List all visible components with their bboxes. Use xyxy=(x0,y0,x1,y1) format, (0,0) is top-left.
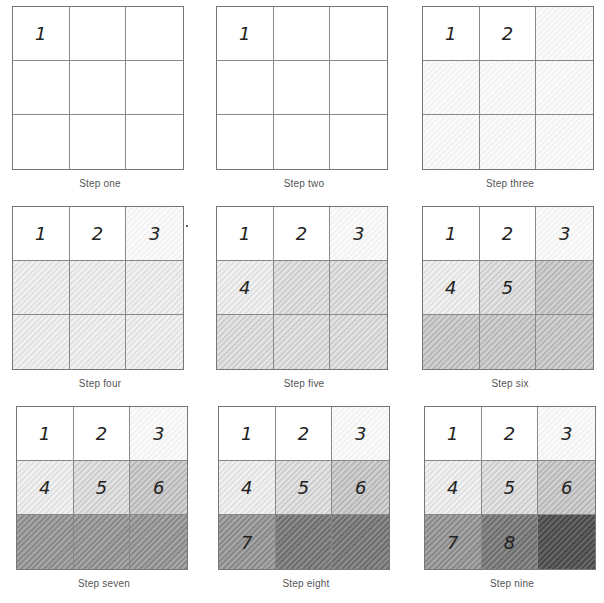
grid-cell xyxy=(126,7,183,61)
grid-cell xyxy=(536,61,593,115)
cell-number: 2 xyxy=(502,23,513,44)
cell-number: 3 xyxy=(153,423,164,444)
cell-number: 4 xyxy=(447,477,458,498)
cell-number: 8 xyxy=(504,532,515,553)
grid-cell: 3 xyxy=(126,207,183,261)
step-panel: 12345678Step nine xyxy=(424,406,600,589)
grid-cell xyxy=(217,315,274,369)
cell-number: 3 xyxy=(353,223,364,244)
grid-cell: 8 xyxy=(482,515,539,569)
step-caption: Step six xyxy=(422,378,598,389)
grid-cell: 2 xyxy=(480,207,537,261)
grid-cell xyxy=(538,515,595,569)
cell-number: 2 xyxy=(502,223,513,244)
cell-number: 5 xyxy=(504,477,515,498)
grid-cell: 1 xyxy=(423,207,480,261)
grid-cell xyxy=(17,515,74,569)
grid-cell xyxy=(274,115,331,169)
cell-number: 2 xyxy=(298,423,309,444)
cell-number: 6 xyxy=(355,477,366,498)
grid-cell: 4 xyxy=(423,261,480,315)
value-grid: 123456 xyxy=(16,406,188,570)
cell-number: 3 xyxy=(355,423,366,444)
step-panel: 12345Step six xyxy=(422,206,598,389)
value-grid: 1234567 xyxy=(218,406,390,570)
grid-cell xyxy=(480,315,537,369)
grid-cell: 1 xyxy=(13,207,70,261)
grid-cell: 1 xyxy=(17,407,74,461)
cell-number: 1 xyxy=(445,23,456,44)
grid-cell: 3 xyxy=(538,407,595,461)
grid-cell xyxy=(480,115,537,169)
grid-cell xyxy=(126,61,183,115)
grid-cell: 1 xyxy=(219,407,276,461)
cell-number: 1 xyxy=(35,23,46,44)
grid-cell xyxy=(330,315,387,369)
grid-cell: 6 xyxy=(332,461,389,515)
grid-cell: 6 xyxy=(538,461,595,515)
cell-number: 2 xyxy=(96,423,107,444)
grid-cell xyxy=(13,261,70,315)
grid-cell: 3 xyxy=(330,207,387,261)
grid-cell xyxy=(274,61,331,115)
grid-cell: 1 xyxy=(217,207,274,261)
grid-cell xyxy=(423,115,480,169)
grid-cell: 2 xyxy=(74,407,131,461)
grid-cell xyxy=(274,261,331,315)
cell-number: 5 xyxy=(96,477,107,498)
grid-cell: 7 xyxy=(219,515,276,569)
cell-number: 1 xyxy=(35,223,46,244)
value-grid: 12 xyxy=(422,6,594,170)
cell-number: 3 xyxy=(559,223,570,244)
grid-cell xyxy=(276,515,333,569)
cell-number: 2 xyxy=(296,223,307,244)
grid-cell xyxy=(217,61,274,115)
grid-cell xyxy=(274,7,331,61)
cell-number: 2 xyxy=(92,223,103,244)
grid-cell xyxy=(536,115,593,169)
cell-number: 4 xyxy=(39,477,50,498)
step-caption: Step seven xyxy=(16,578,192,589)
cell-number: 2 xyxy=(504,423,515,444)
grid-cell xyxy=(330,115,387,169)
grid-cell: 5 xyxy=(276,461,333,515)
grid-cell xyxy=(126,115,183,169)
grid-cell xyxy=(13,61,70,115)
grid-cell: 4 xyxy=(17,461,74,515)
cell-number: 1 xyxy=(39,423,50,444)
value-grid: 12345 xyxy=(422,206,594,370)
grid-cell: 5 xyxy=(74,461,131,515)
step-caption: Step one xyxy=(12,178,188,189)
cell-number: 1 xyxy=(239,23,250,44)
grid-cell xyxy=(536,315,593,369)
value-grid: 1234 xyxy=(216,206,388,370)
grid-cell: 3 xyxy=(332,407,389,461)
cell-number: 1 xyxy=(445,223,456,244)
grid-cell xyxy=(13,115,70,169)
grid-cell: 3 xyxy=(536,207,593,261)
step-caption: Step two xyxy=(216,178,392,189)
cell-number: 4 xyxy=(445,277,456,298)
grid-cell xyxy=(332,515,389,569)
stray-pencil-dot xyxy=(186,225,188,227)
step-panel: 1234567Step eight xyxy=(218,406,394,589)
grid-cell: 1 xyxy=(425,407,482,461)
cell-number: 7 xyxy=(241,532,252,553)
grid-cell xyxy=(70,7,127,61)
cell-number: 6 xyxy=(153,477,164,498)
step-panel: 123Step four xyxy=(12,206,188,389)
grid-cell xyxy=(70,61,127,115)
grid-cell: 7 xyxy=(425,515,482,569)
grid-cell xyxy=(330,261,387,315)
step-caption: Step eight xyxy=(218,578,394,589)
cell-number: 6 xyxy=(561,477,572,498)
grid-cell: 4 xyxy=(219,461,276,515)
grid-cell xyxy=(130,515,187,569)
cell-number: 4 xyxy=(241,477,252,498)
step-caption: Step three xyxy=(422,178,598,189)
grid-cell: 2 xyxy=(276,407,333,461)
grid-cell xyxy=(70,115,127,169)
grid-cell xyxy=(423,61,480,115)
grid-cell: 2 xyxy=(480,7,537,61)
grid-cell: 1 xyxy=(217,7,274,61)
